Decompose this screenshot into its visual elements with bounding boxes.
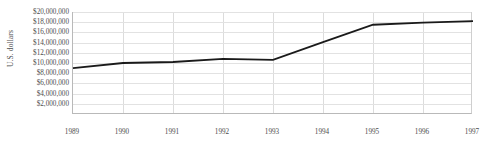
x-axis-tick-label: 1996 [402, 128, 442, 137]
y-axis-tick-label: $14,000,000 [14, 39, 69, 47]
y-axis-tick-label: $16,000,000 [14, 28, 69, 36]
x-axis-tick-label: 1991 [152, 128, 192, 137]
x-axis-tick-label: 1990 [102, 128, 142, 137]
series-line-us-dollars [73, 12, 473, 114]
y-axis-tick-label: $10,000,000 [14, 59, 69, 67]
y-axis-tick-label: $2,000,000 [14, 100, 69, 108]
x-axis-tick-label: 1993 [252, 128, 292, 137]
y-axis-tick-label: $4,000,000 [14, 90, 69, 98]
plot-area [72, 12, 472, 114]
y-axis-tick-label: $12,000,000 [14, 49, 69, 57]
x-axis-tick-label: 1997 [452, 128, 488, 137]
y-axis-tick-label: $8,000,000 [14, 69, 69, 77]
series-polyline [73, 21, 473, 68]
y-axis-tick-label: $18,000,000 [14, 18, 69, 26]
x-axis-tick-label: 1995 [352, 128, 392, 137]
x-axis-tick-label: 1992 [202, 128, 242, 137]
x-axis-tick-labels: 198919901991199219931994199519961997 [72, 128, 472, 142]
line-chart: U.S. dollars $2,000,000$4,000,000$6,000,… [0, 0, 488, 150]
x-axis-tick-label: 1994 [302, 128, 342, 137]
y-axis-tick-label: $20,000,000 [14, 8, 69, 16]
x-axis-tick-label: 1989 [52, 128, 92, 137]
y-axis-tick-labels: $2,000,000$4,000,000$6,000,000$8,000,000… [14, 12, 69, 114]
y-axis-tick-label: $6,000,000 [14, 79, 69, 87]
